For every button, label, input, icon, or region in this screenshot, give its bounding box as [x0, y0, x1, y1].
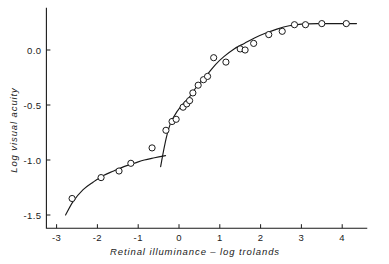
fitted-curves	[66, 24, 357, 215]
data-point-marker	[116, 168, 122, 174]
data-point-marker	[242, 47, 248, 53]
y-tick-label: -0.5	[23, 100, 41, 111]
data-point-marker	[211, 55, 217, 61]
data-point-marker	[291, 22, 297, 28]
x-axis-tick-labels: -3-2-101234	[52, 232, 345, 243]
data-point-marker	[173, 116, 179, 122]
data-point-marker	[195, 82, 201, 88]
data-point-marker	[149, 145, 155, 151]
visual-acuity-scatter-chart: -3-2-101234 0.0-0.5-1.0-1.5 Retinal illu…	[0, 0, 389, 264]
y-axis-tick-marks	[46, 50, 50, 215]
y-tick-label: -1.5	[23, 210, 41, 221]
data-point-marker	[128, 160, 134, 166]
y-axis-tick-labels: 0.0-0.5-1.0-1.5	[23, 45, 41, 221]
data-point-marker	[190, 90, 196, 96]
x-tick-label: -2	[93, 232, 102, 243]
data-point-marker	[163, 127, 169, 133]
data-series	[69, 145, 155, 202]
x-tick-label: 0	[176, 232, 182, 243]
x-tick-label: 3	[299, 232, 305, 243]
axes-group: -3-2-101234 0.0-0.5-1.0-1.5	[23, 8, 366, 243]
figure-container: -3-2-101234 0.0-0.5-1.0-1.5 Retinal illu…	[0, 0, 389, 264]
y-tick-label: 0.0	[27, 45, 41, 56]
data-group	[66, 21, 357, 216]
data-point-marker	[319, 21, 325, 27]
x-tick-label: 1	[217, 232, 223, 243]
data-point-marker	[98, 175, 104, 181]
x-tick-label: -3	[52, 232, 61, 243]
x-axis-title: Retinal illuminance – log trolands	[110, 246, 280, 257]
data-point-marker	[279, 28, 285, 34]
data-point-marker	[302, 22, 308, 28]
rod-branch-fit	[66, 156, 166, 215]
data-points	[69, 21, 349, 202]
y-axis-title: Log visual acuity	[8, 87, 19, 173]
x-axis-tick-marks	[57, 224, 343, 228]
data-point-marker	[343, 21, 349, 27]
data-point-marker	[204, 73, 210, 79]
data-point-marker	[251, 40, 257, 46]
data-point-marker	[187, 98, 193, 104]
x-tick-label: -1	[134, 232, 143, 243]
x-tick-label: 2	[258, 232, 264, 243]
data-point-marker	[266, 31, 272, 37]
y-tick-label: -1.0	[23, 155, 41, 166]
x-tick-label: 4	[339, 232, 345, 243]
data-point-marker	[223, 59, 229, 65]
data-point-marker	[69, 195, 75, 201]
axis-lines	[46, 8, 366, 228]
